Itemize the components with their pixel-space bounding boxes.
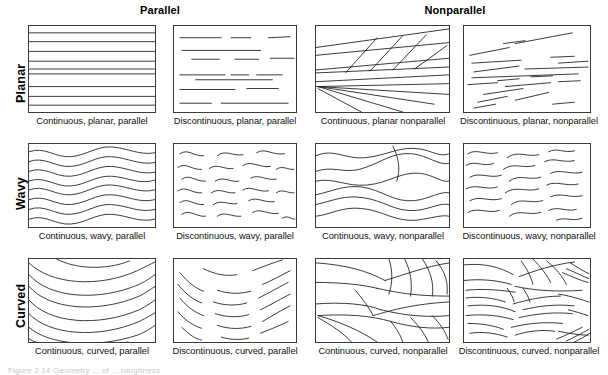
panel-caption-discontinuous-planar-parallel: Discontinuous, planar, parallel <box>166 116 304 126</box>
panel-caption-discontinuous-curved-parallel: Discontinuous, curved, parallel <box>166 346 304 356</box>
panel-diagram <box>29 144 155 227</box>
panel-continuous-curved-nonparallel <box>315 258 450 343</box>
panel-continuous-planar-parallel <box>28 25 156 113</box>
panel-caption-continuous-wavy-nonparallel: Continuous, wavy, nonparallel <box>308 231 458 241</box>
column-header-parallel: Parallel <box>95 4 225 16</box>
panel-discontinuous-planar-parallel <box>173 25 297 113</box>
panel-diagram <box>316 144 449 227</box>
panel-continuous-curved-parallel <box>28 258 156 343</box>
panel-diagram <box>174 259 296 342</box>
row-label-wavy: Wavy <box>14 177 28 210</box>
panel-caption-discontinuous-curved-nonparallel: Discontinuous, curved, nonparallel <box>455 346 603 356</box>
panel-caption-discontinuous-wavy-nonparallel: Discontinuous, wavy, nonparallel <box>455 231 603 241</box>
panel-diagram <box>29 26 155 112</box>
figure-caption-partial: Figure 2.14 Geometry ... of ... roughnes… <box>8 366 160 375</box>
panel-diagram <box>174 26 296 112</box>
panel-caption-continuous-planar-parallel: Continuous, planar, parallel <box>28 116 156 126</box>
panel-discontinuous-planar-nonparallel <box>463 25 591 113</box>
panel-discontinuous-wavy-parallel <box>173 143 297 228</box>
panel-caption-discontinuous-planar-nonparallel: Discontinuous, planar, nonparallel <box>455 116 603 126</box>
panel-diagram <box>316 259 449 342</box>
panel-caption-continuous-curved-parallel: Continuous, curved, parallel <box>28 346 156 356</box>
panel-caption-continuous-wavy-parallel: Continuous, wavy, parallel <box>28 231 156 241</box>
panel-diagram <box>316 26 449 112</box>
row-label-planar: Planar <box>14 64 28 103</box>
panel-diagram <box>174 144 296 227</box>
panel-diagram <box>464 26 590 112</box>
figure-bedding-geometry: Parallel Nonparallel Planar Wavy Curved … <box>0 0 608 375</box>
panel-continuous-planar-nonparallel <box>315 25 450 113</box>
panel-discontinuous-wavy-nonparallel <box>463 143 591 228</box>
panel-discontinuous-curved-nonparallel <box>463 258 591 343</box>
panel-continuous-wavy-parallel <box>28 143 156 228</box>
panel-caption-discontinuous-wavy-parallel: Discontinuous, wavy, parallel <box>166 231 304 241</box>
column-header-nonparallel: Nonparallel <box>390 4 520 16</box>
panel-discontinuous-curved-parallel <box>173 258 297 343</box>
panel-diagram <box>464 144 590 227</box>
row-label-curved: Curved <box>14 284 28 328</box>
panel-continuous-wavy-nonparallel <box>315 143 450 228</box>
panel-diagram <box>29 259 155 342</box>
panel-diagram <box>464 259 590 342</box>
panel-caption-continuous-planar-nonparallel: Continuous, planar nonparallel <box>310 116 456 126</box>
panel-caption-continuous-curved-nonparallel: Continuous, curved, nonparallel <box>308 346 458 356</box>
